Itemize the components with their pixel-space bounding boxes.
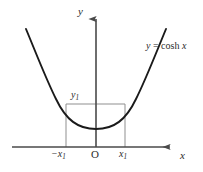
x-tick-label-positive-x1: x1 bbox=[119, 149, 127, 161]
x1-neg-subscript: 1 bbox=[62, 153, 66, 161]
curve-variable: x bbox=[179, 40, 186, 51]
x1-neg-base: −x bbox=[51, 148, 62, 159]
y1-subscript: 1 bbox=[75, 94, 79, 102]
y-value-label-y1: y1 bbox=[71, 90, 79, 102]
origin-label: O bbox=[91, 149, 99, 160]
x-axis-label: x bbox=[180, 150, 185, 161]
x-tick-label-negative-x1: −x1 bbox=[51, 149, 66, 161]
curve-equation-label: y = cosh x bbox=[146, 41, 186, 51]
y-axis-label: y bbox=[78, 6, 83, 17]
graph-canvas bbox=[0, 0, 203, 172]
curve-function-name: cosh bbox=[161, 40, 179, 51]
x1-pos-subscript: 1 bbox=[123, 153, 127, 161]
curve-equals-sign: = bbox=[150, 40, 161, 51]
cosh-graph-figure: y x O −x1 x1 y1 y = cosh x bbox=[0, 0, 203, 172]
